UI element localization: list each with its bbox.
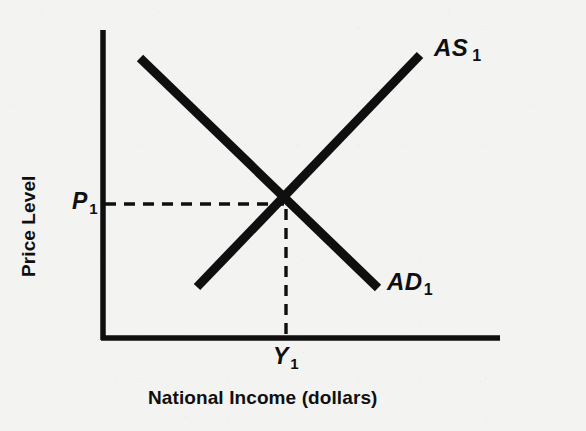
as-curve-label: AS1 [434, 36, 482, 60]
aggregate-supply-curve [197, 55, 420, 287]
x-axis-tick-label-text: Y [273, 343, 288, 369]
x-axis-tick-label-y1: Y1 [273, 345, 299, 368]
y-axis-tick-label-text: P [72, 188, 87, 214]
as-ad-diagram: AS1 AD1 P1 Y1 National Income (dollars) … [0, 0, 586, 431]
x-axis-tick-label-subscript: 1 [290, 355, 298, 372]
x-axis-title: National Income (dollars) [148, 388, 377, 407]
y-axis-tick-label-subscript: 1 [89, 200, 97, 217]
y-axis-tick-label-p1: P1 [72, 190, 98, 213]
as-curve-label-text: AS [434, 34, 468, 61]
ad-curve-label: AD1 [387, 270, 433, 294]
aggregate-demand-curve [140, 58, 378, 288]
y-axis-title: Price Level [19, 176, 38, 277]
ad-curve-label-text: AD [387, 268, 423, 295]
ad-curve-label-subscript: 1 [424, 281, 433, 298]
as-curve-label-subscript: 1 [472, 47, 481, 64]
